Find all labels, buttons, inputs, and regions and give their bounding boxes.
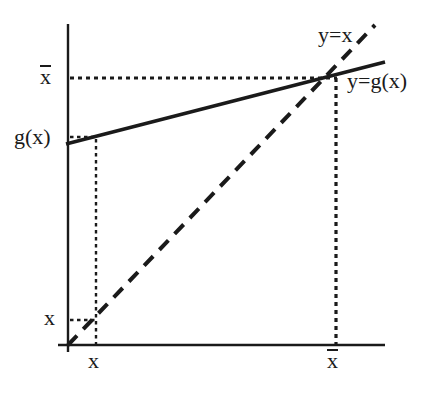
y-axis-label-gx: g(x) xyxy=(14,126,51,148)
y-axis-label-x: x xyxy=(44,307,55,329)
y-axis-label-xbar: x xyxy=(40,64,51,88)
identity-line xyxy=(68,25,375,345)
y-axis-label-xbar-text: x xyxy=(40,64,51,88)
diagram-canvas xyxy=(0,0,442,395)
fixed-point-diagram: x g(x) x x x y=x y=g(x) xyxy=(0,0,442,395)
x-axis-label-x: x xyxy=(88,350,99,372)
identity-line-label: y=x xyxy=(318,24,352,46)
x-axis-label-xbar-text: x xyxy=(327,348,338,372)
function-line-label: y=g(x) xyxy=(347,70,407,92)
x-axis-label-xbar: x xyxy=(327,348,338,372)
